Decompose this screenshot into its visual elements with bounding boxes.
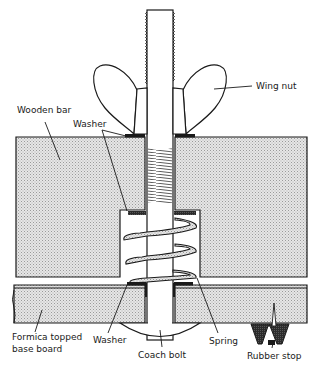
- washer-bottom-right: [174, 282, 193, 286]
- label-formica-line1: Formica topped: [12, 332, 82, 342]
- washer-top-left: [125, 134, 145, 138]
- label-washer-top: Washer: [73, 119, 107, 129]
- label-washer-bottom: Washer: [93, 335, 127, 345]
- label-wooden-bar: Wooden bar: [17, 105, 71, 115]
- washer-bottom-left-edge: [145, 283, 147, 297]
- label-coach-bolt: Coach bolt: [138, 350, 187, 360]
- leader-washer-top-1: [102, 130, 126, 136]
- clamp-diagram: Wing nut Wooden bar Washer Formica toppe…: [0, 0, 317, 372]
- bolt-shaft: [146, 10, 175, 340]
- washer-cavity-top-left: [128, 211, 146, 215]
- label-rubber-stop: Rubber stop: [247, 351, 302, 361]
- label-wing-nut: Wing nut: [256, 81, 297, 91]
- label-spring: Spring: [209, 336, 238, 346]
- wooden-bar-right: [175, 137, 307, 277]
- washer-bottom-left: [127, 282, 146, 286]
- washer-top-right: [175, 134, 195, 138]
- label-formica-line2: base board: [12, 344, 62, 354]
- washer-cavity-top-right: [174, 211, 196, 215]
- washer-bottom-right-edge: [173, 283, 175, 297]
